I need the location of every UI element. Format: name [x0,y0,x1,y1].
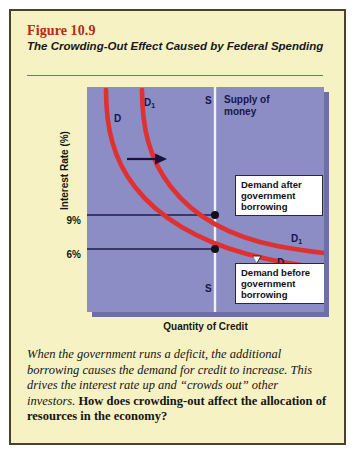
callout-before-line2: government [241,278,320,289]
callout-before-line1: Demand before [241,267,320,278]
x-axis-title: Quantity of Credit [87,321,324,332]
callout-after-line3: borrowing [241,201,318,212]
supply-of-money-line1: Supply of [224,94,270,106]
figure-card: Figure 10.9 The Crowding-Out Effect Caus… [9,9,346,445]
y-tick-label-6: 6% [51,249,81,260]
callout-after-line1: Demand after [241,179,318,190]
callout-demand-before: Demand before government borrowing [235,263,324,304]
curve-label-d1-left-subscript: 1 [151,102,155,109]
callout-before-line3: borrowing [241,289,320,300]
callout-demand-after: Demand after government borrowing [235,175,323,216]
equilibrium-point-9pct [211,211,219,219]
curve-label-d1-left: D1 [144,97,155,108]
supply-label-top: S [205,95,212,106]
y-tick-label-9: 9% [51,215,81,226]
supply-of-money-label: Supply of money [224,94,270,118]
supply-label-bottom: S [205,283,212,294]
curve-label-d-left: D [114,113,121,124]
shift-arrow-icon [127,154,167,165]
plot-area: D D1 D1 D S S Supply of money Demand aft… [87,87,324,312]
y-axis-title: Interest Rate (%) [59,116,70,226]
figure-caption: When the government runs a deficit, the … [27,347,327,425]
chart-region: Interest Rate (%) 9% 6% [27,87,333,339]
curve-label-d1-right-subscript: 1 [298,238,302,245]
equilibrium-point-6pct [211,245,219,253]
figure-title: The Crowding-Out Effect Caused by Federa… [27,39,327,54]
figure-header: Figure 10.9 The Crowding-Out Effect Caus… [27,23,327,54]
supply-of-money-line2: money [224,106,270,118]
callout-after-line2: government [241,190,318,201]
figure-number: Figure 10.9 [27,23,327,38]
curve-label-d1-right: D1 [291,233,302,244]
title-divider [27,75,323,76]
